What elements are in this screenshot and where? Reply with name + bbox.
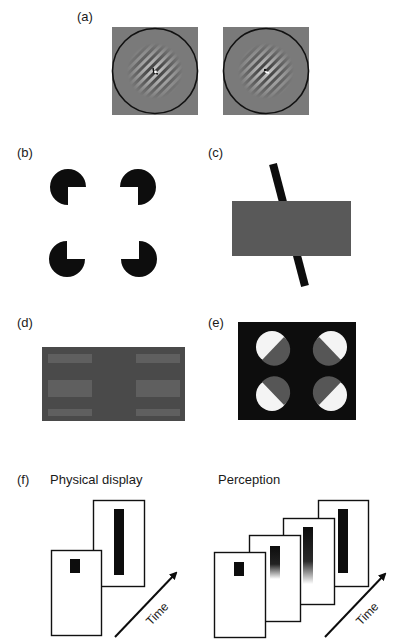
- gabor-patch-right: [223, 27, 309, 115]
- percept-frame-1: [215, 553, 266, 638]
- gabor-patch-left: [112, 27, 198, 115]
- pacman-top-left: [50, 169, 86, 205]
- frame-1: [52, 551, 102, 636]
- kanizsa-inducers: [49, 169, 157, 277]
- occlusion-figure: [232, 164, 351, 286]
- pacman-bottom-right: [121, 241, 157, 277]
- occluding-rectangle: [232, 201, 351, 256]
- disc-figure: [238, 322, 356, 420]
- banded-rectangle: [42, 347, 185, 421]
- pacman-top-right: [120, 169, 156, 205]
- pacman-bottom-left: [49, 241, 85, 277]
